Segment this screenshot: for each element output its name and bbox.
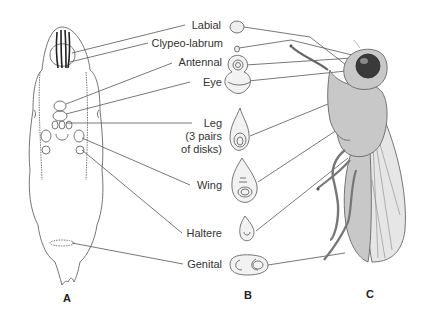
genital-disk [230, 255, 268, 275]
label-genital: Genital [180, 258, 222, 270]
label-haltere: Haltere [178, 227, 222, 239]
label-labial: Labial [186, 19, 221, 31]
eye-antennal-disk [225, 55, 251, 93]
label-clypeo-labrum: Clypeo-labrum [148, 37, 223, 49]
fly-eye [356, 54, 380, 78]
adult-fly-illustration [290, 40, 406, 262]
labial-disk [230, 21, 244, 33]
haltere-disk [240, 216, 254, 241]
imaginal-disks [225, 21, 268, 275]
larva-illustration [29, 27, 103, 285]
label-leg: Leg [190, 117, 222, 129]
label-eye: Eye [190, 76, 222, 88]
label-leg-note-2: of disks) [170, 143, 222, 155]
panel-label-b: B [244, 289, 252, 301]
label-wing: Wing [186, 179, 222, 191]
clypeo-labrum-disk [235, 46, 240, 52]
panel-label-c: C [366, 288, 374, 300]
diagram-stage: Labial Clypeo-labrum Antennal Eye Leg (3… [0, 0, 428, 317]
label-leg-note-1: (3 pairs [170, 130, 222, 142]
panel-label-a: A [63, 292, 71, 304]
wing-disk [232, 158, 257, 202]
leg-disk [230, 108, 249, 150]
label-antennal: Antennal [170, 56, 222, 68]
